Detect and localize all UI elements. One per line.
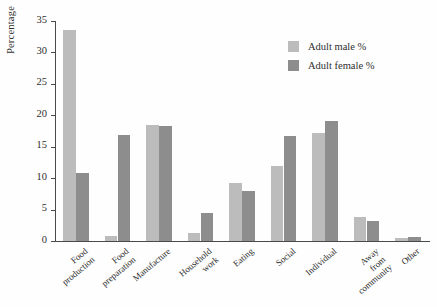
y-tick: 35 bbox=[0, 21, 55, 22]
bar[interactable] bbox=[118, 135, 131, 241]
bar[interactable] bbox=[229, 183, 242, 241]
y-axis-title: Percentage bbox=[5, 0, 16, 90]
bar[interactable] bbox=[146, 125, 159, 241]
legend-swatch-icon bbox=[288, 41, 299, 52]
legend-item[interactable]: Adult female % bbox=[288, 59, 374, 71]
y-tick-label: 15 bbox=[37, 139, 48, 150]
bar[interactable] bbox=[242, 191, 255, 241]
bar[interactable] bbox=[354, 217, 367, 241]
bar-group bbox=[146, 21, 172, 241]
bar[interactable] bbox=[408, 237, 421, 241]
bar-group bbox=[105, 21, 131, 241]
bar-group bbox=[395, 21, 421, 241]
y-tick-label: 5 bbox=[42, 202, 47, 213]
y-tick-label: 25 bbox=[37, 76, 48, 87]
y-tick: 15 bbox=[0, 147, 55, 148]
legend-label: Adult male % bbox=[308, 41, 366, 52]
bar[interactable] bbox=[284, 136, 297, 241]
bar[interactable] bbox=[312, 133, 325, 241]
bar[interactable] bbox=[105, 236, 118, 241]
bar[interactable] bbox=[271, 166, 284, 241]
y-tick: 5 bbox=[0, 210, 55, 211]
y-tick-label: 35 bbox=[37, 14, 48, 25]
y-tick-label: 0 bbox=[42, 234, 47, 245]
bar[interactable] bbox=[159, 126, 172, 241]
bar[interactable] bbox=[325, 121, 338, 241]
y-tick-label: 30 bbox=[37, 45, 48, 56]
x-axis-line bbox=[55, 241, 430, 242]
bar-group bbox=[63, 21, 89, 241]
legend-label: Adult female % bbox=[308, 60, 374, 71]
bar[interactable] bbox=[395, 238, 408, 241]
y-tick: 30 bbox=[0, 52, 55, 53]
bar-group bbox=[188, 21, 214, 241]
y-tick: 20 bbox=[0, 115, 55, 116]
chart-legend: Adult male %Adult female % bbox=[288, 40, 374, 78]
bar[interactable] bbox=[63, 30, 76, 241]
bar[interactable] bbox=[367, 221, 380, 241]
legend-item[interactable]: Adult male % bbox=[288, 40, 374, 52]
y-tick-label: 10 bbox=[37, 171, 48, 182]
bar[interactable] bbox=[188, 233, 201, 241]
bar-chart: Percentage 05101520253035 Food productio… bbox=[0, 0, 437, 307]
legend-swatch-icon bbox=[288, 60, 299, 71]
bar[interactable] bbox=[201, 213, 214, 241]
y-tick-label: 20 bbox=[37, 108, 48, 119]
x-tick-label: Household work bbox=[138, 246, 220, 307]
bar[interactable] bbox=[76, 173, 89, 242]
bar-group bbox=[229, 21, 255, 241]
y-tick: 10 bbox=[0, 178, 55, 179]
y-tick: 0 bbox=[0, 241, 55, 242]
y-tick: 25 bbox=[0, 84, 55, 85]
